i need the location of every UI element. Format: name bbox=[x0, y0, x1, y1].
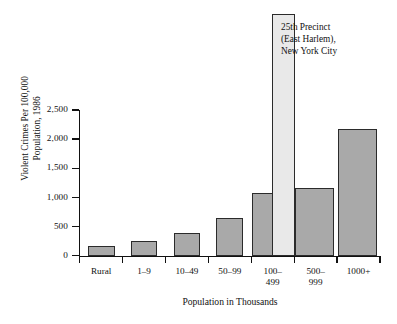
y-axis-tick-label: 1,000 bbox=[47, 193, 68, 202]
bar-6 bbox=[338, 129, 377, 256]
y-axis-tick bbox=[72, 138, 79, 139]
bar-0 bbox=[88, 246, 115, 256]
x-axis-tick-label: 1000+ bbox=[331, 266, 386, 277]
y-axis-tick-label: 0 bbox=[63, 251, 68, 260]
bar-1 bbox=[131, 241, 158, 256]
y-axis-tick bbox=[72, 226, 79, 227]
plot-area: 05001,0001,5002,0002,500 Rural1–910–4950… bbox=[0, 0, 397, 324]
x-axis-tick bbox=[379, 256, 380, 263]
y-axis-tick-label: 2,500 bbox=[47, 105, 68, 114]
x-axis-tick bbox=[165, 256, 166, 263]
x-axis-tick bbox=[122, 256, 123, 263]
y-axis-tick-label: 2,000 bbox=[47, 134, 68, 143]
y-axis-title: Violent Crimes Per 100,000 Population, 1… bbox=[19, 38, 44, 218]
y-axis-title-line-1: Violent Crimes Per 100,000 bbox=[19, 38, 31, 218]
x-axis-tick bbox=[79, 256, 80, 263]
bar-3 bbox=[216, 218, 243, 256]
y-axis-tick bbox=[72, 109, 79, 110]
x-axis-tick bbox=[251, 256, 252, 263]
y-axis-tick bbox=[72, 255, 79, 256]
x-axis-tick bbox=[336, 256, 337, 263]
x-axis-tick bbox=[208, 256, 209, 263]
x-axis-title: Population in Thousands bbox=[79, 296, 381, 307]
y-axis-spine bbox=[79, 110, 80, 257]
y-axis-tick bbox=[72, 168, 79, 169]
y-axis-title-line-2: Population, 1986 bbox=[31, 38, 43, 218]
bar-5 bbox=[295, 188, 334, 256]
y-axis-tick-label: 500 bbox=[54, 222, 68, 231]
bar-2 bbox=[174, 233, 201, 256]
highlight-annotation: 25th Precinct (East Harlem), New York Ci… bbox=[281, 21, 337, 58]
y-axis-tick-label: 1,500 bbox=[47, 163, 68, 172]
x-axis-tick bbox=[294, 256, 295, 263]
y-axis-tick bbox=[72, 197, 79, 198]
chart-figure: 05001,0001,5002,0002,500 Rural1–910–4950… bbox=[0, 0, 397, 324]
